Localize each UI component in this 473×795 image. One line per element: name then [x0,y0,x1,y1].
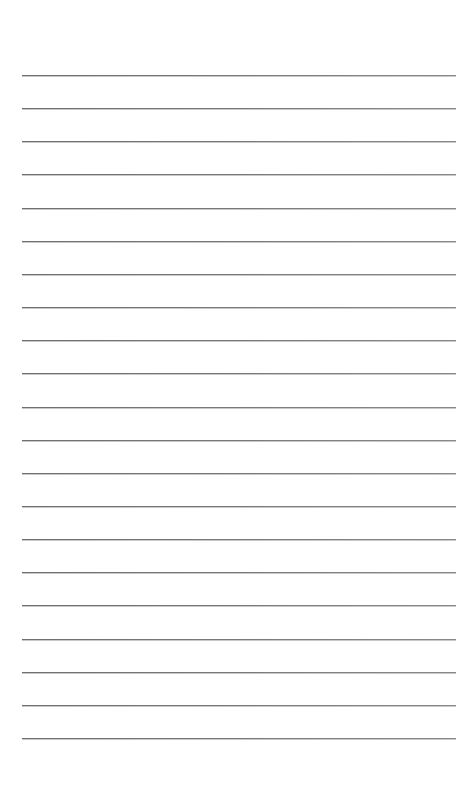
ruled-line [22,705,456,707]
ruled-line [22,672,456,674]
ruled-line [22,539,456,541]
ruled-line [22,506,456,508]
ruled-line [22,440,456,442]
ruled-line [22,75,456,77]
lined-paper-page [0,0,473,795]
ruled-line [22,174,456,176]
ruled-line [22,307,456,309]
ruled-line [22,738,456,740]
ruled-line [22,473,456,475]
ruled-line [22,208,456,210]
ruled-line [22,241,456,243]
ruled-line [22,605,456,607]
ruled-line [22,340,456,342]
ruled-line [22,639,456,641]
ruled-line [22,108,456,110]
ruled-line [22,407,456,409]
ruled-line [22,373,456,375]
ruled-line [22,141,456,143]
ruled-line [22,274,456,276]
ruled-line [22,572,456,574]
